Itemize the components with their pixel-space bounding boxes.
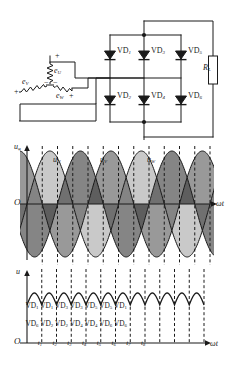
diode-vd3-triangle bbox=[139, 51, 150, 59]
diode-label-vd6: VD6 bbox=[188, 92, 202, 101]
diode-label-vd3: VD3 bbox=[151, 47, 165, 56]
time-marker-7: t7 bbox=[126, 340, 130, 347]
conduction-bottom-2: VD2 bbox=[40, 320, 53, 329]
conduction-top-5: VD5 bbox=[84, 302, 97, 311]
chart1-y-axis-label: uφ bbox=[14, 143, 21, 152]
source-label-ew: eW bbox=[56, 92, 64, 101]
source-label-eu: eU bbox=[54, 67, 61, 76]
chart2-origin-label: O bbox=[14, 337, 21, 346]
conduction-top-4: VD3 bbox=[70, 302, 83, 311]
conduction-top-6: VD5 bbox=[99, 302, 112, 311]
chart1-y-arrow bbox=[24, 145, 30, 151]
time-marker-1: t1 bbox=[38, 340, 42, 347]
polarity-minus-w: − bbox=[53, 79, 58, 87]
chart-phase-voltages bbox=[0, 142, 234, 267]
diode-vd2-triangle bbox=[105, 96, 116, 104]
time-marker-8: t8 bbox=[141, 340, 145, 347]
time-marker-6: t6 bbox=[112, 340, 116, 347]
conduction-top-1: VD1 bbox=[25, 302, 38, 311]
legend-label-uv: uV bbox=[100, 156, 107, 165]
polarity-plus-w: + bbox=[69, 92, 74, 100]
polarity-plus-v: + bbox=[14, 88, 19, 96]
diode-label-vd4: VD4 bbox=[151, 92, 165, 101]
junction-dot-top bbox=[142, 33, 146, 37]
figure-three-phase-bridge-rectifier: VD1 VD3 VD5 VD2 VD4 VD6 RL eU eV eW + − … bbox=[0, 0, 234, 367]
conduction-bottom-7: VD6 bbox=[114, 320, 127, 329]
wire-phase-w-return bbox=[20, 104, 96, 121]
time-marker-3: t3 bbox=[67, 340, 71, 347]
conduction-bottom-4: VD4 bbox=[70, 320, 83, 329]
time-marker-4: t4 bbox=[82, 340, 86, 347]
diode-label-vd5: VD5 bbox=[188, 47, 202, 56]
conduction-top-2: VD1 bbox=[40, 302, 53, 311]
chart-rectified-output bbox=[0, 267, 234, 367]
conduction-top-7: VD1 bbox=[114, 302, 127, 311]
chart1-origin-label: O bbox=[14, 198, 21, 207]
chart2-x-axis-label: ωt bbox=[210, 340, 218, 348]
chart2-y-arrow bbox=[24, 270, 30, 276]
wire-phase-v-tap bbox=[72, 78, 144, 88]
load-label-rl: RL bbox=[203, 64, 211, 73]
circuit-diagram bbox=[0, 0, 234, 140]
conduction-bottom-3: VD2 bbox=[55, 320, 68, 329]
chart2-y-axis-label: u bbox=[16, 268, 20, 276]
chart1-x-axis-label: ωt bbox=[216, 200, 224, 208]
conduction-bottom-5: VD4 bbox=[84, 320, 97, 329]
polarity-minus-u: − bbox=[44, 79, 49, 87]
diode-label-vd2: VD2 bbox=[117, 92, 131, 101]
conduction-bottom-6: VD6 bbox=[99, 320, 112, 329]
diode-vd1-triangle bbox=[105, 51, 116, 59]
legend-label-uw: uW bbox=[147, 156, 155, 165]
time-marker-5: t5 bbox=[97, 340, 101, 347]
junction-dot-bottom bbox=[142, 120, 146, 124]
time-marker-2: t2 bbox=[53, 340, 57, 347]
legend-label-uu: uU bbox=[53, 156, 61, 165]
conduction-top-3: VD3 bbox=[55, 302, 68, 311]
conduction-bottom-1: VD6 bbox=[25, 320, 38, 329]
diode-label-vd1: VD1 bbox=[117, 47, 131, 56]
polarity-plus-u: + bbox=[55, 52, 60, 60]
diode-vd6-triangle bbox=[176, 96, 187, 104]
diode-vd4-triangle bbox=[139, 96, 150, 104]
source-label-ev: eV bbox=[22, 78, 29, 87]
diode-vd5-triangle bbox=[176, 51, 187, 59]
